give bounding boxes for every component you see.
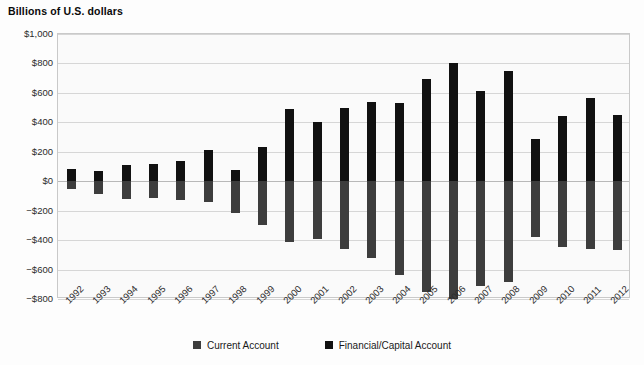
bar-current-account[interactable] [531, 181, 540, 237]
plot-area [57, 33, 630, 298]
bar-financial-capital-account[interactable] [476, 91, 485, 182]
bar-financial-capital-account[interactable] [531, 139, 540, 181]
bar-financial-capital-account[interactable] [67, 169, 76, 181]
bar-group[interactable] [531, 34, 540, 297]
bar-current-account[interactable] [231, 181, 240, 213]
bar-group[interactable] [395, 34, 404, 297]
bar-financial-capital-account[interactable] [558, 116, 567, 181]
bar-current-account[interactable] [504, 181, 513, 282]
bar-group[interactable] [258, 34, 267, 297]
legend-item[interactable]: Financial/Capital Account [325, 340, 451, 351]
bar-financial-capital-account[interactable] [122, 165, 131, 181]
bar-current-account[interactable] [367, 181, 376, 258]
bar-financial-capital-account[interactable] [449, 63, 458, 182]
bar-group[interactable] [231, 34, 240, 297]
y-tick-label: −$800 [1, 293, 53, 304]
bar-current-account[interactable] [258, 181, 267, 225]
bar-group[interactable] [67, 34, 76, 297]
legend-item[interactable]: Current Account [193, 340, 279, 351]
y-tick-label: $400 [1, 116, 53, 127]
bar-financial-capital-account[interactable] [94, 171, 103, 181]
bar-group[interactable] [176, 34, 185, 297]
bar-financial-capital-account[interactable] [176, 161, 185, 182]
bar-current-account[interactable] [313, 181, 322, 239]
y-tick-label: $1,000 [1, 28, 53, 39]
bar-current-account[interactable] [122, 181, 131, 199]
bar-group[interactable] [558, 34, 567, 297]
bar-group[interactable] [204, 34, 213, 297]
bar-group[interactable] [449, 34, 458, 297]
y-tick-label: −$400 [1, 234, 53, 245]
chart-root: Billions of U.S. dollars $1,000$800$600$… [0, 0, 644, 365]
bars-layer [58, 34, 629, 297]
y-tick-label: $600 [1, 86, 53, 97]
legend-label: Financial/Capital Account [339, 340, 451, 351]
bar-financial-capital-account[interactable] [149, 164, 158, 182]
legend-swatch-current-account [193, 341, 201, 349]
bar-group[interactable] [340, 34, 349, 297]
bar-group[interactable] [613, 34, 622, 297]
bar-current-account[interactable] [94, 181, 103, 194]
y-tick-label: −$600 [1, 263, 53, 274]
bar-current-account[interactable] [449, 181, 458, 299]
bar-financial-capital-account[interactable] [504, 71, 513, 181]
bar-current-account[interactable] [67, 181, 76, 188]
bar-financial-capital-account[interactable] [613, 115, 622, 181]
legend-label: Current Account [207, 340, 279, 351]
bar-financial-capital-account[interactable] [231, 170, 240, 181]
bar-current-account[interactable] [285, 181, 294, 242]
bar-financial-capital-account[interactable] [258, 147, 267, 181]
bar-group[interactable] [285, 34, 294, 297]
bar-current-account[interactable] [395, 181, 404, 275]
bar-current-account[interactable] [340, 181, 349, 249]
y-tick-label: $200 [1, 145, 53, 156]
bar-financial-capital-account[interactable] [422, 79, 431, 181]
bar-financial-capital-account[interactable] [313, 122, 322, 182]
legend-swatch-financial-capital-account [325, 341, 333, 349]
bar-group[interactable] [122, 34, 131, 297]
bar-financial-capital-account[interactable] [586, 98, 595, 181]
bar-current-account[interactable] [422, 181, 431, 291]
y-tick-label: $0 [1, 175, 53, 186]
bar-group[interactable] [422, 34, 431, 297]
bar-group[interactable] [313, 34, 322, 297]
y-tick-label: −$200 [1, 204, 53, 215]
y-axis: $1,000$800$600$400$200$0−$200−$400−$600−… [0, 0, 53, 365]
bar-group[interactable] [586, 34, 595, 297]
bar-group[interactable] [476, 34, 485, 297]
x-axis: 1992199319941995199619971998199920002001… [57, 298, 630, 338]
bar-current-account[interactable] [613, 181, 622, 250]
bar-current-account[interactable] [586, 181, 595, 249]
bar-current-account[interactable] [176, 181, 185, 199]
bar-current-account[interactable] [558, 181, 567, 247]
bar-financial-capital-account[interactable] [367, 102, 376, 181]
bar-current-account[interactable] [476, 181, 485, 286]
y-tick-label: $800 [1, 57, 53, 68]
bar-group[interactable] [504, 34, 513, 297]
bar-current-account[interactable] [204, 181, 213, 202]
bar-financial-capital-account[interactable] [204, 150, 213, 182]
bar-group[interactable] [149, 34, 158, 297]
bar-current-account[interactable] [149, 181, 158, 198]
bar-financial-capital-account[interactable] [395, 103, 404, 181]
bar-group[interactable] [367, 34, 376, 297]
chart-legend: Current AccountFinancial/Capital Account [0, 336, 644, 354]
bar-group[interactable] [94, 34, 103, 297]
bar-financial-capital-account[interactable] [285, 109, 294, 181]
bar-financial-capital-account[interactable] [340, 108, 349, 182]
